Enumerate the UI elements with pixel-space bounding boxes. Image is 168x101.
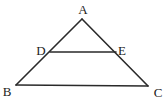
label-a: A bbox=[78, 2, 88, 17]
triangle-diagram: A D E B C bbox=[0, 0, 168, 101]
label-b: B bbox=[3, 84, 12, 99]
label-e: E bbox=[118, 43, 126, 58]
label-d: D bbox=[36, 43, 45, 58]
segment-bc bbox=[16, 85, 148, 86]
label-c: C bbox=[154, 85, 163, 100]
